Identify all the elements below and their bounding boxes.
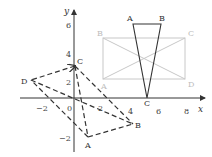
gray-label-c: C [188,29,194,38]
quad-label-a: A [84,141,91,150]
coordinate-diagram: B C D A x y −2 0 2 4 6 8 6 4 2 −2 D C A … [0,0,212,157]
y-axis-label: y [63,6,70,16]
y-tick: 4 [66,50,71,59]
y-tick: 6 [66,21,71,30]
x-axis-label: x [198,104,203,114]
gray-label-b: B [97,29,103,38]
x-tick: 8 [184,107,189,116]
quad-label-d: D [21,77,27,86]
x-tick: 2 [98,104,103,113]
triangle-label-b: B [159,14,165,23]
gray-label-d: D [188,80,194,89]
triangle-label-c: C [144,99,150,108]
quad-label-b: B [135,121,141,130]
dashed-quadrilateral [31,66,133,137]
y-tick: 2 [66,78,71,87]
gray-rectangle [103,38,185,79]
triangle-label-a: A [126,14,133,23]
x-tick: 4 [128,107,133,116]
x-tick: 0 [67,104,72,113]
x-tick: −2 [36,104,48,113]
triangle-abc [133,24,161,98]
y-tick: −2 [59,134,71,143]
x-tick: 6 [156,107,161,116]
quad-label-c: C [77,57,83,66]
axes [20,10,205,152]
gray-label-a: A [100,82,107,91]
